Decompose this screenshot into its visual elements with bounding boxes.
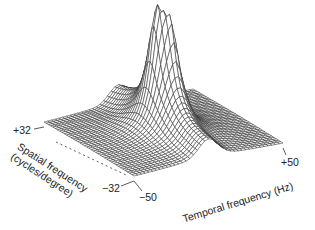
tick-label-temporal-minus50: −50	[139, 192, 157, 203]
mesh-surface	[44, 5, 283, 176]
tick-label-temporal-plus50: +50	[281, 157, 299, 168]
tick-mark-minus32	[121, 181, 134, 186]
tick-label-spatial-minus32: −32	[102, 183, 120, 194]
tick-label-spatial-plus32: +32	[13, 125, 31, 136]
tick-mark-plus50	[283, 148, 286, 155]
tick-mark-plus32	[34, 127, 44, 129]
tick-mark-minus50	[134, 181, 142, 191]
